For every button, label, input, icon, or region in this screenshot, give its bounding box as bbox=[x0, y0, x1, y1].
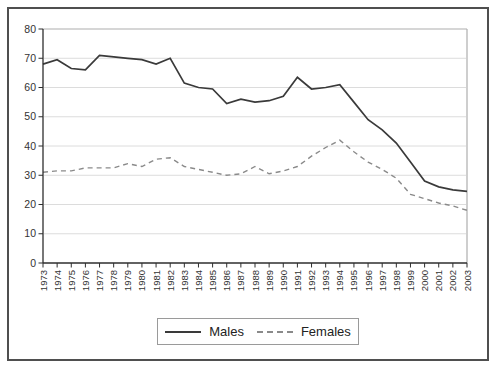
x-tick-label: 1988 bbox=[250, 270, 261, 291]
x-tick-label: 1999 bbox=[405, 270, 416, 291]
legend-label-females: Females bbox=[301, 324, 351, 339]
x-tick-label: 1986 bbox=[221, 270, 232, 291]
x-tick-label: 1994 bbox=[334, 270, 345, 291]
x-tick-label: 1981 bbox=[151, 270, 162, 291]
x-tick-label: 2000 bbox=[419, 270, 430, 291]
legend-item-females: Females bbox=[257, 324, 351, 339]
x-tick-label: 1976 bbox=[80, 270, 91, 291]
y-tick-label: 60 bbox=[24, 81, 36, 93]
x-tick-label: 1979 bbox=[122, 270, 133, 291]
x-tick-label: 2003 bbox=[462, 270, 473, 291]
x-tick-label: 1991 bbox=[292, 270, 303, 291]
y-tick-label: 10 bbox=[24, 227, 36, 239]
x-tick-label: 1975 bbox=[66, 270, 77, 291]
y-tick-label: 0 bbox=[30, 257, 36, 269]
x-tick-label: 1996 bbox=[363, 270, 374, 291]
x-tick-label: 1997 bbox=[377, 270, 388, 291]
x-tick-label: 2002 bbox=[447, 270, 458, 291]
males-series-line bbox=[43, 55, 467, 191]
x-tick-label: 1984 bbox=[193, 270, 204, 291]
legend: Males Females bbox=[157, 318, 359, 345]
x-tick-label: 1989 bbox=[264, 270, 275, 291]
y-tick-label: 50 bbox=[24, 110, 36, 122]
x-tick-label: 1985 bbox=[207, 270, 218, 291]
females-line-swatch bbox=[257, 331, 293, 333]
x-tick-label: 1993 bbox=[320, 270, 331, 291]
figure: 0102030405060708019731974197519761977197… bbox=[0, 0, 496, 369]
line-chart: 0102030405060708019731974197519761977197… bbox=[0, 0, 496, 369]
x-tick-label: 1987 bbox=[235, 270, 246, 291]
x-tick-label: 1982 bbox=[165, 270, 176, 291]
x-tick-label: 1990 bbox=[278, 270, 289, 291]
x-tick-label: 1973 bbox=[38, 270, 49, 291]
x-tick-label: 1998 bbox=[391, 270, 402, 291]
legend-label-males: Males bbox=[209, 324, 244, 339]
x-tick-label: 1978 bbox=[108, 270, 119, 291]
x-tick-label: 1980 bbox=[136, 270, 147, 291]
x-tick-label: 2001 bbox=[433, 270, 444, 291]
y-tick-label: 20 bbox=[24, 198, 36, 210]
x-tick-label: 1995 bbox=[348, 270, 359, 291]
males-line-swatch bbox=[165, 331, 201, 333]
y-tick-label: 40 bbox=[24, 140, 36, 152]
x-tick-label: 1992 bbox=[306, 270, 317, 291]
y-tick-label: 30 bbox=[24, 169, 36, 181]
x-tick-label: 1974 bbox=[52, 270, 63, 291]
x-tick-label: 1983 bbox=[179, 270, 190, 291]
x-tick-label: 1977 bbox=[94, 270, 105, 291]
legend-item-males: Males bbox=[165, 324, 244, 339]
y-tick-label: 70 bbox=[24, 52, 36, 64]
y-tick-label: 80 bbox=[24, 23, 36, 35]
